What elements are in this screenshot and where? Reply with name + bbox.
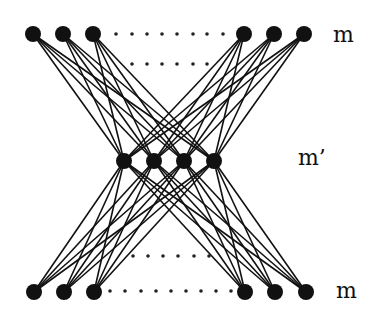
edge [34,161,154,292]
edge [93,34,124,161]
ellipsis-dot [146,254,150,258]
ellipsis-dot [191,62,195,66]
edge [34,161,124,292]
ellipsis-dot [130,32,134,36]
bottom-layer-label: m [336,280,357,302]
ellipsis-dot [214,289,218,293]
top-node [236,26,252,42]
edge [93,34,184,161]
top-node [266,26,282,42]
edge [154,161,245,292]
middle-layer-label: m’ [298,147,326,169]
ellipsis-dot [175,62,179,66]
edge [124,34,244,161]
bottom-node [298,284,314,300]
edges [33,34,306,292]
ellipsis-dot [192,254,196,258]
ellipsis-dot [145,62,149,66]
ellipsis-dot [207,254,211,258]
edge [184,161,245,292]
edge [63,34,124,161]
ellipsis-dot [184,289,188,293]
middle-node [146,153,162,169]
ellipsis-dot [130,62,134,66]
ellipsis-dot [123,289,127,293]
ellipsis-dot [221,32,225,36]
middle-node [176,153,192,169]
edge [184,34,304,161]
edge [64,161,214,292]
ellipsis-dot [205,62,209,66]
ellipsis-dot [114,32,118,36]
ellipsis-dot [139,289,143,293]
ellipsis-dot [191,32,195,36]
top-node [55,26,71,42]
edge [214,161,245,292]
edge [94,161,214,292]
edge [124,34,304,161]
bottom-node [56,284,72,300]
ellipsis-dot [108,289,112,293]
ellipsis-dot [229,289,233,293]
top-node [296,26,312,42]
bottom-node [86,284,102,300]
ellipsis-dot [145,32,149,36]
bottom-node [267,284,283,300]
ellipsis-dot [160,32,164,36]
edge [214,161,275,292]
edge [93,34,154,161]
bottom-node [26,284,42,300]
ellipsis-dot [169,289,173,293]
ellipsis-dot [131,254,135,258]
nodes [25,26,314,300]
middle-node [206,153,222,169]
ellipsis-dot [205,32,209,36]
ellipsis-dot [175,32,179,36]
edge [124,34,274,161]
edge [154,34,304,161]
edge [34,161,184,292]
bottom-node [237,284,253,300]
ellipsis-dot [161,254,165,258]
middle-node [116,153,132,169]
top-node [85,26,101,42]
ellipsis-dot [160,62,164,66]
top-layer-label: m [333,24,354,46]
top-node [25,26,41,42]
ellipsis-dot [176,254,180,258]
edge [214,34,304,161]
network-diagram [0,0,388,313]
edge [34,161,214,292]
ellipsis-dot [154,289,158,293]
ellipsis-dot [199,289,203,293]
